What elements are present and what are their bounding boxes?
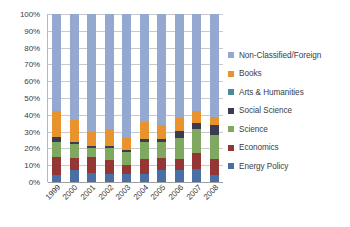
bar-segment[interactable] — [210, 14, 219, 116]
bar-segment[interactable] — [175, 170, 184, 182]
bar-column[interactable] — [210, 14, 219, 182]
bar-segment[interactable] — [157, 14, 166, 125]
x-axis-tick-label: 2003 — [114, 183, 133, 202]
legend-swatch-icon — [228, 126, 234, 132]
x-axis-tick-label: 2005 — [149, 183, 168, 202]
y-axis-tick-label: 80% — [24, 43, 40, 52]
legend-item[interactable]: Arts & Humanities — [228, 83, 348, 102]
bar-segment[interactable] — [122, 152, 131, 165]
bar-column[interactable] — [105, 14, 114, 182]
bar-segment[interactable] — [52, 111, 61, 136]
legend-item[interactable]: Non-Classified/Foreign — [228, 46, 348, 65]
bar-column[interactable] — [52, 14, 61, 182]
x-axis-tick-label: 1999 — [43, 183, 62, 202]
bar-segment[interactable] — [52, 175, 61, 182]
bar-segment[interactable] — [157, 125, 166, 139]
y-axis-tick-label: 50% — [24, 94, 40, 103]
bar-segment[interactable] — [157, 158, 166, 171]
bar-segment[interactable] — [52, 157, 61, 175]
legend-label: Energy Policy — [239, 162, 288, 171]
bar-segment[interactable] — [70, 144, 79, 157]
bar-segment[interactable] — [70, 120, 79, 142]
bar-segment[interactable] — [140, 174, 149, 182]
bar-column[interactable] — [140, 14, 149, 182]
x-axis-tick-label: 2002 — [96, 183, 115, 202]
bar-segment[interactable] — [140, 159, 149, 173]
bar-segment[interactable] — [52, 14, 61, 111]
bar-segment[interactable] — [87, 148, 96, 156]
stacked-bar-chart: 0%10%20%30%40%50%60%70%80%90%100% 199920… — [0, 0, 350, 227]
bar-segment[interactable] — [122, 14, 131, 137]
plot-area — [47, 14, 223, 182]
bar-segment[interactable] — [210, 117, 219, 125]
bar-segment[interactable] — [105, 148, 114, 161]
bar-segment[interactable] — [122, 165, 131, 173]
bar-segment[interactable] — [210, 159, 219, 175]
bar-segment[interactable] — [70, 170, 79, 182]
bar-segment[interactable] — [87, 173, 96, 182]
bar-segment[interactable] — [70, 158, 79, 171]
bar-segment[interactable] — [192, 153, 201, 170]
legend-item[interactable]: Economics — [228, 139, 348, 158]
bar-segment[interactable] — [105, 14, 114, 129]
y-axis-tick-label: 70% — [24, 60, 40, 69]
legend-label: Economics — [239, 143, 279, 152]
bar-segment[interactable] — [52, 142, 61, 157]
x-axis-tick-label: 2007 — [184, 183, 203, 202]
bar-segment[interactable] — [175, 159, 184, 171]
bar-segment[interactable] — [175, 131, 184, 138]
y-axis: 0%10%20%30%40%50%60%70%80%90%100% — [0, 14, 44, 182]
x-axis-tick-label: 2001 — [79, 183, 98, 202]
bar-segment[interactable] — [192, 129, 201, 153]
legend-label: Arts & Humanities — [239, 88, 304, 97]
y-axis-tick-label: 0% — [29, 178, 40, 187]
y-axis-tick-label: 90% — [24, 26, 40, 35]
bar-segment[interactable] — [122, 138, 131, 151]
legend-swatch-icon — [228, 108, 234, 114]
y-axis-tick-label: 40% — [24, 110, 40, 119]
legend-item[interactable]: Science — [228, 120, 348, 139]
legend-swatch-icon — [228, 89, 234, 95]
bar-segment[interactable] — [87, 14, 96, 132]
bar-segment[interactable] — [140, 142, 149, 160]
legend-item[interactable]: Books — [228, 65, 348, 84]
chart-legend: Non-Classified/ForeignBooksArts & Humani… — [228, 46, 348, 176]
legend-swatch-icon — [228, 52, 234, 58]
bar-column[interactable] — [175, 14, 184, 182]
bar-segment[interactable] — [87, 157, 96, 173]
legend-item[interactable]: Social Science — [228, 102, 348, 121]
bar-segment[interactable] — [140, 14, 149, 122]
legend-item[interactable]: Energy Policy — [228, 157, 348, 176]
bar-segment[interactable] — [105, 160, 114, 173]
bar-segment[interactable] — [175, 118, 184, 131]
bar-segment[interactable] — [87, 132, 96, 145]
bar-segment[interactable] — [175, 138, 184, 159]
legend-label: Non-Classified/Foreign — [239, 51, 321, 60]
plot-area-wrapper — [47, 14, 223, 182]
bar-segment[interactable] — [192, 111, 201, 123]
bar-segment[interactable] — [210, 125, 219, 135]
bar-segment[interactable] — [140, 122, 149, 139]
bar-segment[interactable] — [105, 174, 114, 182]
bar-segment[interactable] — [210, 135, 219, 159]
bar-segment[interactable] — [192, 14, 201, 111]
bar-segment[interactable] — [70, 14, 79, 120]
bar-column[interactable] — [87, 14, 96, 182]
bar-segment[interactable] — [175, 14, 184, 118]
bar-column[interactable] — [122, 14, 131, 182]
bar-segment[interactable] — [157, 170, 166, 182]
bar-segment[interactable] — [105, 129, 114, 146]
y-axis-tick-label: 20% — [24, 144, 40, 153]
y-axis-tick-label: 60% — [24, 77, 40, 86]
x-axis-tick-label: 2004 — [131, 183, 150, 202]
bar-segment[interactable] — [122, 174, 131, 182]
bar-column[interactable] — [192, 14, 201, 182]
x-axis-tick-label: 2006 — [167, 183, 186, 202]
legend-label: Science — [239, 125, 268, 134]
bar-segment[interactable] — [157, 142, 166, 158]
bar-segment[interactable] — [210, 175, 219, 182]
bar-column[interactable] — [70, 14, 79, 182]
bar-segment[interactable] — [192, 169, 201, 182]
legend-swatch-icon — [228, 71, 234, 77]
bar-column[interactable] — [157, 14, 166, 182]
